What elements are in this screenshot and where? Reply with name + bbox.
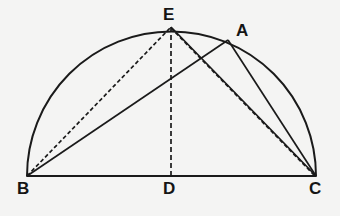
vertex-label-a: A [236, 22, 248, 39]
vertex-label-e: E [163, 6, 174, 23]
vertex-label-c: C [309, 180, 321, 197]
vertex-label-b: B [17, 180, 29, 197]
vertex-label-d: D [163, 180, 175, 197]
segment-ba [27, 40, 228, 176]
segment-ac [228, 40, 316, 176]
geometry-figure: E A B D C [0, 0, 340, 216]
